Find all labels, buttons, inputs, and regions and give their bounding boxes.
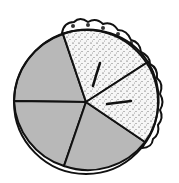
pie-diagram <box>0 0 179 183</box>
